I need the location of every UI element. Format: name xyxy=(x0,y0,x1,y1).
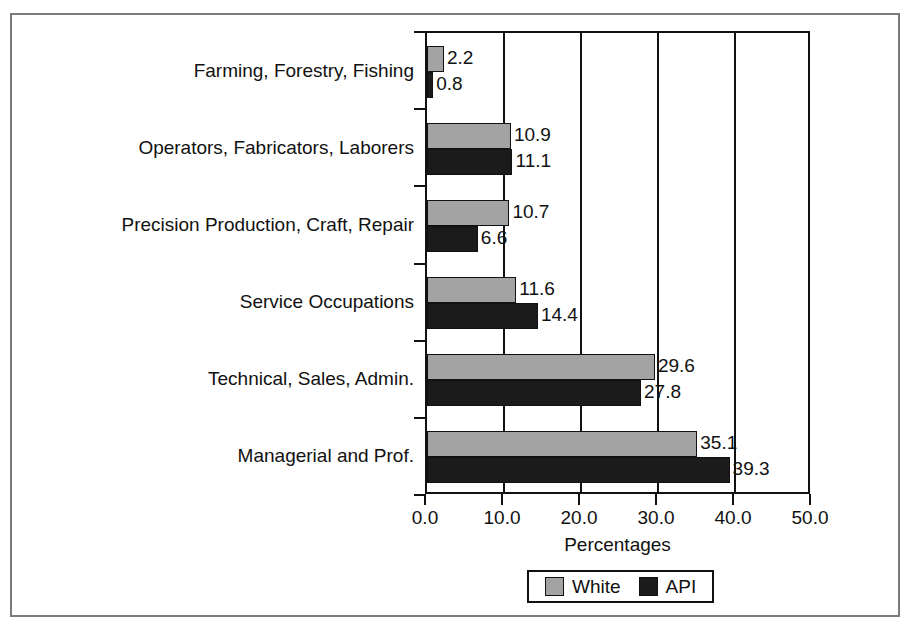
x-axis-tick-label: 50.0 xyxy=(775,508,845,527)
x-axis-tick xyxy=(578,494,580,505)
category-label: Farming, Forestry, Fishing xyxy=(14,61,414,80)
bar-value-label: 29.6 xyxy=(658,356,695,375)
x-axis-tick-label: 0.0 xyxy=(390,508,460,527)
legend-item-white: White xyxy=(541,577,625,596)
category-label: Precision Production, Craft, Repair xyxy=(14,215,414,234)
x-axis-tick xyxy=(655,494,657,505)
bar-white-5 xyxy=(427,431,697,457)
y-axis-tick xyxy=(414,31,425,33)
bar-white-2 xyxy=(427,200,509,226)
bar-value-label: 14.4 xyxy=(541,305,578,324)
bar-api-4 xyxy=(427,380,641,406)
legend-item-api: API xyxy=(635,577,701,596)
x-axis-tick xyxy=(501,494,503,505)
bar-white-1 xyxy=(427,123,511,149)
category-label: Operators, Fabricators, Laborers xyxy=(14,138,414,157)
category-label: Managerial and Prof. xyxy=(14,446,414,465)
bar-value-label: 10.7 xyxy=(512,202,549,221)
bar-api-0 xyxy=(427,72,433,98)
category-axis-labels: Farming, Forestry, FishingOperators, Fab… xyxy=(0,0,414,630)
bar-api-3 xyxy=(427,303,538,329)
chart-legend: WhiteAPI xyxy=(527,570,714,603)
bar-value-label: 10.9 xyxy=(514,125,551,144)
gridline xyxy=(734,33,736,492)
gridline xyxy=(580,33,582,492)
x-axis-tick-label: 10.0 xyxy=(467,508,537,527)
x-axis-tick-label: 40.0 xyxy=(698,508,768,527)
legend-swatch-icon xyxy=(545,577,564,596)
legend-label: White xyxy=(572,577,621,596)
y-axis-tick xyxy=(414,417,425,419)
legend-label: API xyxy=(666,577,697,596)
y-axis-tick xyxy=(414,108,425,110)
bar-white-4 xyxy=(427,354,655,380)
bar-value-label: 11.1 xyxy=(515,151,551,170)
bar-value-label: 39.3 xyxy=(733,459,770,478)
plot-area xyxy=(425,31,810,494)
bar-api-2 xyxy=(427,226,478,252)
gridline xyxy=(657,33,659,492)
y-axis-tick xyxy=(414,340,425,342)
bar-value-label: 35.1 xyxy=(700,433,737,452)
x-axis-tick xyxy=(809,494,811,505)
x-axis-tick xyxy=(424,494,426,505)
bar-value-label: 0.8 xyxy=(436,74,462,93)
x-axis-tick-label: 20.0 xyxy=(544,508,614,527)
category-label: Technical, Sales, Admin. xyxy=(14,369,414,388)
y-axis-tick xyxy=(414,263,425,265)
bar-value-label: 2.2 xyxy=(447,48,473,67)
bar-api-1 xyxy=(427,149,512,175)
y-axis-tick xyxy=(414,185,425,187)
x-axis-title: Percentages xyxy=(425,535,810,554)
gridline xyxy=(503,33,505,492)
x-axis-tick-label: 30.0 xyxy=(621,508,691,527)
bar-value-label: 27.8 xyxy=(644,382,681,401)
legend-swatch-icon xyxy=(639,577,658,596)
bar-api-5 xyxy=(427,457,730,483)
bar-white-0 xyxy=(427,46,444,72)
x-axis-tick xyxy=(732,494,734,505)
bar-value-label: 11.6 xyxy=(519,279,555,298)
category-label: Service Occupations xyxy=(14,292,414,311)
bar-value-label: 6.6 xyxy=(481,228,507,247)
chart-screenshot: Farming, Forestry, FishingOperators, Fab… xyxy=(0,0,909,630)
bar-white-3 xyxy=(427,277,516,303)
